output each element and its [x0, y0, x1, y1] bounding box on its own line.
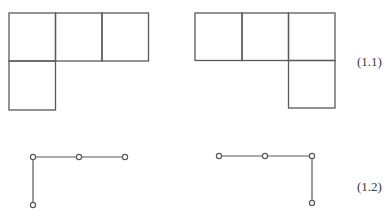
node [216, 153, 221, 158]
right-square-shape [195, 13, 335, 108]
cell [56, 13, 103, 61]
node [262, 153, 267, 158]
node [309, 200, 314, 205]
left-square-shape [9, 13, 149, 110]
cell [195, 13, 242, 61]
figure-canvas [0, 0, 392, 216]
cell [289, 61, 336, 109]
node [30, 154, 35, 159]
cell [289, 13, 336, 61]
left-path-graph [30, 154, 127, 207]
node [309, 153, 314, 158]
node [30, 202, 35, 207]
cell [9, 13, 56, 61]
cell [242, 13, 289, 61]
equation-label-1-2: (1.2) [357, 180, 382, 193]
node [76, 154, 81, 159]
right-path-graph [216, 153, 314, 205]
node [122, 154, 127, 159]
equation-label-1-1: (1.1) [357, 55, 382, 68]
cell [102, 13, 149, 61]
cell [9, 61, 56, 110]
